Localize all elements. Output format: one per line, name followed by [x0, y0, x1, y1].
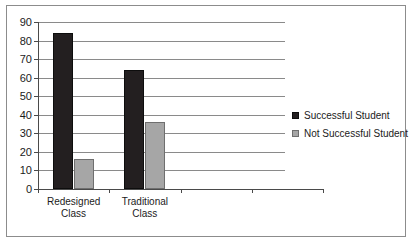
legend-item: Not Successful Student: [292, 125, 408, 141]
category-label-line: Class: [108, 208, 182, 220]
category-label: RedesignedClass: [37, 196, 111, 220]
y-axis-tick: [34, 133, 38, 134]
x-axis-tick: [38, 189, 39, 193]
legend-label: Not Successful Student: [304, 128, 408, 139]
y-axis-tick-label: 10: [2, 165, 32, 176]
plot-area: [38, 22, 285, 189]
y-axis-tick-label: 80: [2, 36, 32, 47]
y-axis-tick: [34, 22, 38, 23]
y-axis-tick: [34, 115, 38, 116]
category-label-line: Class: [37, 208, 111, 220]
legend-item: Successful Student: [292, 107, 408, 123]
legend-label: Successful Student: [304, 110, 390, 121]
chart-legend: Successful StudentNot Successful Student: [292, 107, 408, 143]
y-axis-tick: [34, 96, 38, 97]
x-axis-tick: [252, 189, 253, 193]
y-axis-tick: [34, 78, 38, 79]
x-axis-tick: [109, 189, 110, 193]
y-axis-tick-label: 0: [2, 184, 32, 195]
y-axis-tick: [34, 152, 38, 153]
y-axis-tick-label: 90: [2, 17, 32, 28]
x-axis-tick: [181, 189, 182, 193]
y-axis-tick-label: 20: [2, 147, 32, 158]
y-axis-tick-label: 60: [2, 73, 32, 84]
category-label-line: Redesigned: [37, 196, 111, 208]
legend-swatch-icon: [292, 130, 299, 137]
legend-swatch-icon: [292, 112, 299, 119]
y-axis: [38, 22, 39, 189]
bar: [74, 159, 94, 189]
bar: [145, 122, 165, 189]
y-axis-tick: [34, 170, 38, 171]
y-axis-tick-label: 30: [2, 128, 32, 139]
y-axis-tick-label: 50: [2, 91, 32, 102]
y-axis-tick-label: 70: [2, 54, 32, 65]
bar: [124, 70, 144, 189]
category-label: TraditionalClass: [108, 196, 182, 220]
y-axis-tick-label: 40: [2, 110, 32, 121]
y-axis-tick: [34, 41, 38, 42]
x-axis-tick: [323, 189, 324, 193]
bar-chart-figure: 9080706050403020100 RedesignedClassTradi…: [0, 0, 413, 244]
category-label-line: Traditional: [108, 196, 182, 208]
bar: [53, 33, 73, 189]
y-axis-tick: [34, 59, 38, 60]
